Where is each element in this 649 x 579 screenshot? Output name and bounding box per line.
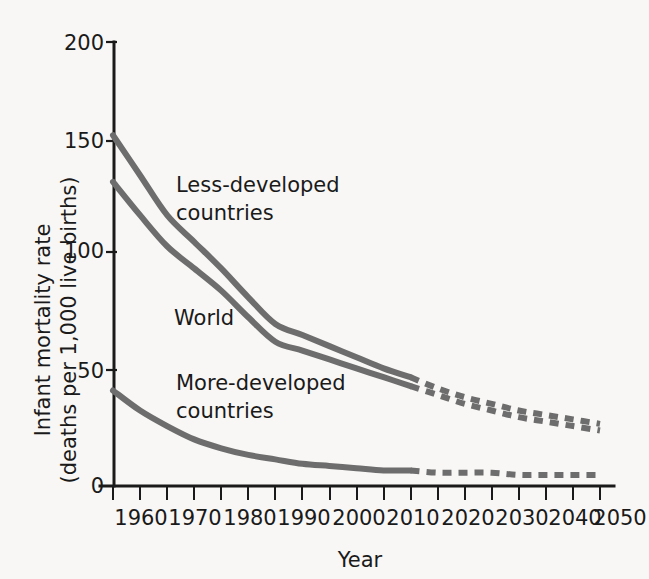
y-axis-title-line1: Infant mortality rate — [31, 224, 55, 437]
series-line-less-developed-solid — [113, 135, 411, 377]
x-axis-ticks — [113, 487, 600, 500]
annotation-less-developed-line1: Less-developed — [176, 173, 340, 197]
annotation-less-developed-line2: countries — [176, 201, 274, 225]
x-tick-labels: 1960 1970 1980 1990 2000 2010 2020 2030 … — [114, 506, 646, 530]
annotation-more-developed-countries: More-developed countries — [176, 371, 346, 423]
chart-plot-area: Infant mortality rate (deaths per 1,000 … — [0, 0, 649, 579]
x-tick-label-1960: 1960 — [114, 506, 167, 530]
x-tick-label-1990: 1990 — [277, 506, 330, 530]
series-line-more-developed-dashed — [411, 470, 600, 475]
annotation-more-developed-line1: More-developed — [176, 371, 346, 395]
y-tick-label-200: 200 — [64, 31, 104, 55]
y-axis-title-line2: (deaths per 1,000 live births) — [57, 177, 81, 484]
y-tick-label-100: 100 — [64, 239, 104, 263]
annotation-more-developed-line2: countries — [176, 399, 274, 423]
x-tick-label-2010: 2010 — [386, 506, 439, 530]
x-tick-label-2030: 2030 — [495, 506, 548, 530]
x-tick-label-2020: 2020 — [441, 506, 494, 530]
y-tick-label-150: 150 — [64, 129, 104, 153]
x-tick-label-1980: 1980 — [223, 506, 276, 530]
x-tick-label-2050: 2050 — [593, 506, 646, 530]
annotation-world-line1: World — [174, 306, 234, 330]
y-tick-label-50: 50 — [77, 359, 104, 383]
annotation-world: World — [174, 306, 234, 330]
annotation-less-developed-countries: Less-developed countries — [176, 173, 340, 225]
x-tick-label-2000: 2000 — [332, 506, 385, 530]
x-axis-title: Year — [337, 548, 383, 572]
infant-mortality-chart-figure: Infant mortality rate (deaths per 1,000 … — [0, 0, 649, 579]
x-tick-label-1970: 1970 — [168, 506, 221, 530]
